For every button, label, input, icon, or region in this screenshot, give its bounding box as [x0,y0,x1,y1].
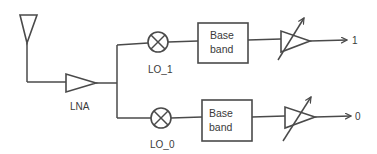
mixer-label-lo1: LO_1 [148,64,173,75]
lna-label: LNA [70,101,90,112]
branch-1: LO_1 Base band 1 [117,18,358,75]
branch-0: LO_0 Base band 0 [117,97,361,150]
antenna-icon [20,15,37,82]
variable-gain-amplifier-icon [283,97,315,141]
output-arrow-1 [310,40,347,41]
baseband-1-line2: band [210,43,234,55]
output-label-1: 1 [352,35,358,46]
mixer-icon [148,32,168,52]
mixer-label-lo0: LO_0 [150,139,175,150]
lna-amplifier-icon [66,74,96,92]
baseband-0-line2: band [209,121,233,133]
baseband-1-line1: Base [210,29,234,41]
variable-gain-amplifier-icon [278,18,310,60]
output-arrow-0 [315,116,351,117]
output-label-0: 0 [355,111,361,122]
baseband-0-line1: Base [209,107,233,119]
mixer-icon [151,108,171,128]
receiver-diagram: LNA LO_1 Base band 1 LO_0 [0,0,377,154]
